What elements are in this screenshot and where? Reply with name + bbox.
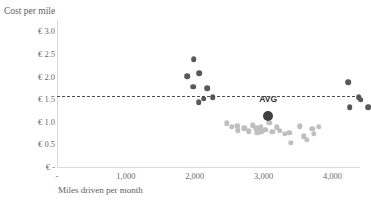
data-point-above-average-0: [191, 57, 197, 63]
data-point-below-average-23: [311, 131, 316, 136]
y-axis-tick-labels: € 3.0€ 2.5€ 2.0€ 1.5€ 1.0€ 0.5€ -: [0, 0, 55, 203]
average-reference-line: [57, 96, 360, 97]
data-point-below-average-21: [304, 137, 309, 142]
data-point-below-average-3: [235, 128, 240, 133]
data-point-above-average-4: [205, 86, 211, 92]
data-point-above-average-12: [365, 104, 371, 110]
data-point-below-average-18: [288, 140, 293, 145]
y-axis-tick-2: € 2.0: [3, 72, 55, 82]
data-point-above-average-6: [196, 99, 202, 105]
x-axis-title: Miles driven per month: [58, 185, 143, 195]
x-axis-tick-1: 1,000: [116, 171, 135, 181]
data-point-above-average-10: [358, 97, 364, 103]
y-axis-tick-6: € -: [3, 162, 55, 172]
data-point-below-average-24: [316, 124, 321, 129]
data-point-above-average-2: [196, 70, 202, 76]
y-axis-tick-4: € 1.0: [3, 117, 55, 127]
x-axis-tick-4: 4,000: [323, 171, 342, 181]
data-point-above-average-11: [347, 105, 353, 111]
data-point-below-average-13: [270, 129, 275, 134]
data-point-above-average-8: [346, 79, 352, 85]
plot-area: AVG: [57, 20, 360, 167]
data-point-below-average-19: [297, 124, 302, 129]
y-axis-tick-5: € 0.5: [3, 139, 55, 149]
data-point-below-average-5: [246, 129, 251, 134]
x-axis-line: [57, 167, 360, 168]
data-point-above-average-1: [184, 73, 190, 79]
y-axis-tick-1: € 2.5: [3, 49, 55, 59]
data-point-below-average-11: [262, 127, 267, 132]
data-point-above-average-3: [190, 84, 196, 90]
x-axis-tick-3: 3,000: [254, 171, 273, 181]
average-marker: [263, 111, 273, 121]
y-axis-tick-0: € 3.0: [3, 26, 55, 36]
y-axis-tick-3: € 1.5: [3, 94, 55, 104]
data-point-below-average-17: [287, 130, 292, 135]
x-axis-tick-2: 2,000: [185, 171, 204, 181]
x-axis-tick-0: -: [56, 171, 59, 181]
